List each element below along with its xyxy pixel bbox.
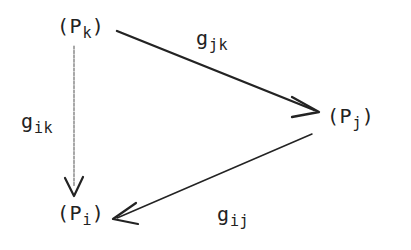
arrowhead-gij	[113, 203, 138, 224]
node-pi-base: (P	[57, 201, 82, 225]
node-pk-subscript: k	[83, 24, 93, 42]
edge-label-gik: gik	[21, 111, 53, 131]
node-pk-close-paren: )	[92, 14, 105, 38]
node-pj-close-paren: )	[362, 104, 375, 128]
edge-line-gij	[117, 134, 312, 218]
node-label-pj: (Pj)	[327, 106, 374, 126]
edge-gjk-base: g	[196, 26, 209, 50]
node-label-pi: (Pi)	[57, 203, 104, 223]
node-pj-subscript: j	[353, 114, 363, 132]
edge-gij-base: g	[217, 202, 230, 226]
edge-label-gij: gij	[217, 204, 249, 224]
edge-gij-subscript: ij	[230, 212, 249, 230]
edge-gik-subscript: ik	[34, 119, 53, 137]
node-pk-base: (P	[57, 14, 82, 38]
edge-gik-base: g	[21, 109, 34, 133]
diagram-canvas: (Pk) (Pj) (Pi) gjk gik gij	[0, 0, 411, 250]
edge-arrow-gij	[113, 134, 312, 224]
edge-label-gjk: gjk	[196, 28, 228, 48]
edge-arrow-gik	[65, 46, 83, 196]
node-pj-base: (P	[327, 104, 352, 128]
node-pi-close-paren: )	[92, 201, 105, 225]
node-label-pk: (Pk)	[57, 16, 104, 36]
node-pi-subscript: i	[83, 211, 93, 229]
edge-gjk-subscript: jk	[209, 36, 228, 54]
